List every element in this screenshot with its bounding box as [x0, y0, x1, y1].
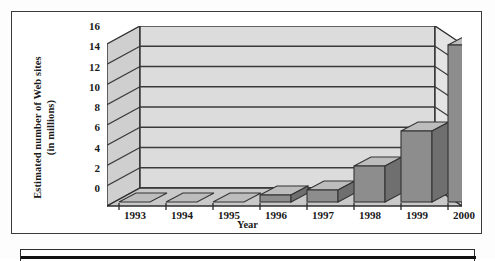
y-tick-label: 4 — [74, 142, 100, 154]
next-figure-frame — [20, 249, 475, 261]
x-axis-title: Year — [12, 219, 483, 230]
y-axis-title-line2: (in millions) — [44, 100, 55, 155]
bar-1998 — [354, 157, 402, 202]
y-tick-label: 12 — [74, 61, 100, 73]
y-tick-label: 10 — [74, 81, 100, 93]
next-figure-frame-shadow — [21, 256, 476, 259]
y-tick-label: 0 — [74, 182, 100, 194]
y-tick-label: 16 — [74, 20, 100, 32]
y-tick-label: 14 — [74, 40, 100, 52]
y-axis-ticks: 16 14 12 10 8 6 4 2 0 — [72, 26, 100, 206]
y-tick-label: 6 — [74, 121, 100, 133]
figure-frame: Estimated number of Web sites (in millio… — [11, 11, 482, 234]
plot-area: 1993 1994 1995 1996 1997 1998 1999 2000 — [107, 26, 462, 206]
chart-3d-scene — [107, 26, 462, 226]
y-tick-label: 8 — [74, 101, 100, 113]
bar-2000 — [448, 36, 462, 202]
y-axis-title-line1: Estimated number of Web sites — [32, 56, 43, 199]
bar-1999 — [401, 122, 449, 202]
y-tick-label: 2 — [74, 162, 100, 174]
y-axis-title: Estimated number of Web sites (in millio… — [32, 33, 57, 223]
